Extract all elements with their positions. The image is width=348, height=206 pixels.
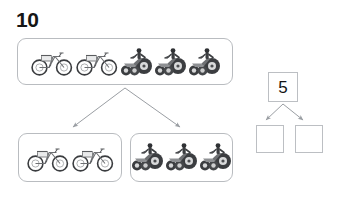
total-count-label: 10 [16,9,38,30]
part-group-bicycles-box [18,133,122,182]
tricycle-icon [199,143,232,172]
tricycle-icon [165,143,198,172]
part-group-bicycles-items [26,142,115,173]
bicycle-icon [75,46,119,77]
bicycle-icon [30,46,74,77]
arrow-to-tricycle-group [125,88,180,127]
whole-group-box [17,38,233,85]
number-bond-part-right-box[interactable] [295,125,323,153]
part-group-tricycles-box [130,133,233,182]
arrow-to-bicycle-group [73,88,125,127]
arrow-to-part-left [266,104,283,120]
tricycle-icon [188,48,221,77]
worksheet-canvas: 10 [0,0,348,206]
whole-group-items [30,46,221,77]
bicycle-icon [71,142,115,173]
tricycle-icon [154,48,187,77]
number-bond-part-left-box[interactable] [256,125,284,153]
part-group-tricycles-items [131,143,232,172]
tricycle-icon [120,48,153,77]
bicycle-icon [26,142,70,173]
arrow-to-part-right [283,104,303,120]
number-bond-whole-box[interactable]: 5 [268,72,298,102]
tricycle-icon [131,143,164,172]
